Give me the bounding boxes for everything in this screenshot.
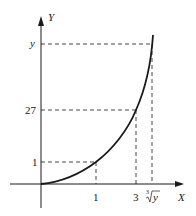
y-tick-27: 27 — [25, 104, 37, 116]
y-axis-label: Y — [48, 11, 56, 23]
cube-root-index: 3 — [146, 189, 149, 195]
cube-function-chart: Y X y 27 1 1 3 3 y — [0, 0, 196, 216]
y-tick-y: y — [29, 37, 35, 49]
x-axis-label: X — [177, 191, 186, 203]
x-tick-3: 3 — [133, 191, 139, 203]
y-tick-1: 1 — [32, 156, 38, 168]
guide-lines — [41, 44, 152, 184]
x-tick-1: 1 — [93, 191, 99, 203]
y-axis-arrow-icon — [38, 16, 44, 26]
x-tick-cube-root-y: 3 y — [146, 189, 160, 203]
x-axis-arrow-icon — [175, 181, 184, 187]
cube-root-radicand: y — [152, 191, 158, 203]
